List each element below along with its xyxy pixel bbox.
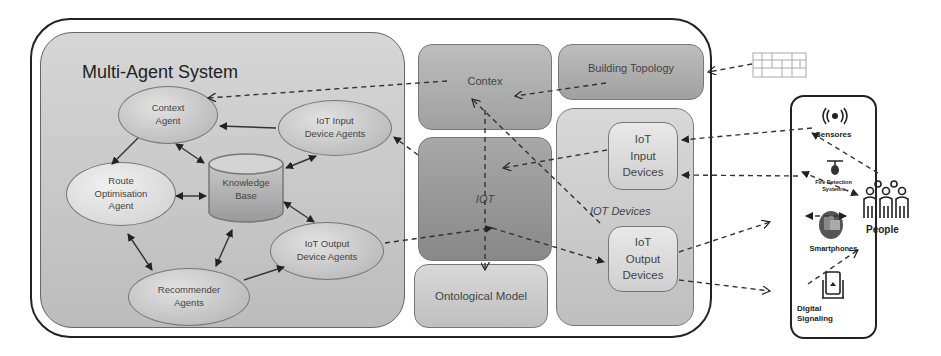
connections-layer <box>0 0 941 356</box>
